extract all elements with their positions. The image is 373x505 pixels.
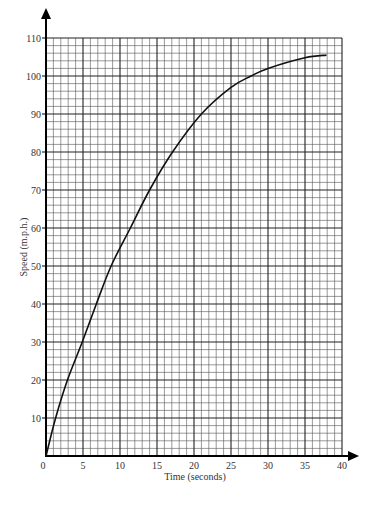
y-tick-labels: 102030405060708090100110 bbox=[26, 33, 46, 424]
y-tick-label: 80 bbox=[31, 147, 41, 158]
x-tick-label: 20 bbox=[189, 460, 199, 471]
x-tick-label: 10 bbox=[115, 460, 125, 471]
x-tick-label: 15 bbox=[152, 460, 162, 471]
x-tick-label: 40 bbox=[337, 460, 347, 471]
x-axis-arrow-icon bbox=[348, 451, 359, 461]
y-tick-label: 40 bbox=[31, 299, 41, 310]
y-axis-arrow-icon bbox=[41, 8, 51, 19]
x-axis-title: Time (seconds) bbox=[164, 471, 226, 483]
speed-curve bbox=[46, 55, 326, 456]
y-tick-label: 90 bbox=[31, 109, 41, 120]
x-tick-labels: 0510152025303540 bbox=[41, 460, 348, 471]
y-tick-label: 110 bbox=[26, 33, 41, 44]
y-axis-title: Speed (m.p.h.) bbox=[18, 218, 30, 277]
y-tick-label: 10 bbox=[31, 413, 41, 424]
y-tick-label: 70 bbox=[31, 185, 41, 196]
y-tick-label: 20 bbox=[31, 375, 41, 386]
x-tick-label: 25 bbox=[226, 460, 236, 471]
x-tick-label: 35 bbox=[300, 460, 310, 471]
y-tick-label: 100 bbox=[26, 71, 41, 82]
x-tick-label: 30 bbox=[263, 460, 273, 471]
x-tick-label: 5 bbox=[81, 460, 86, 471]
speed-time-chart: 0510152025303540 10203040506070809010011… bbox=[0, 0, 373, 505]
y-tick-label: 50 bbox=[31, 261, 41, 272]
x-tick-label: 0 bbox=[41, 460, 46, 471]
y-tick-label: 60 bbox=[31, 223, 41, 234]
y-tick-label: 30 bbox=[31, 337, 41, 348]
